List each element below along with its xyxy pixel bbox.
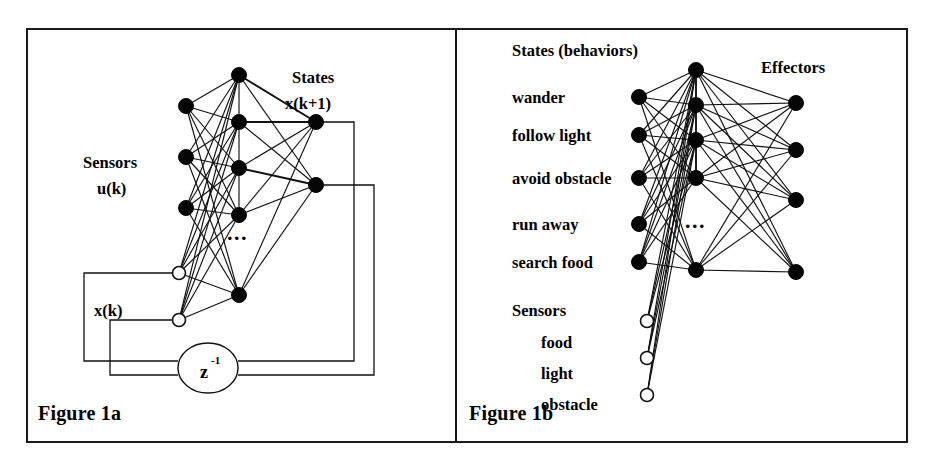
hidden-node	[232, 68, 247, 83]
hidden-ellipsis: ...	[227, 220, 248, 245]
behavior-label-run-away: run away	[512, 215, 579, 234]
hidden-node	[689, 263, 704, 278]
diagram-1b: ... States (behaviors) Effectors wander …	[457, 28, 908, 443]
effector-node	[789, 265, 804, 280]
panel-figure-1a: ... z -1	[26, 28, 457, 443]
hidden-node	[232, 288, 247, 303]
sensor-label-light: light	[541, 364, 574, 383]
figure-page: ... z -1	[0, 0, 932, 471]
sensor-layer-1b	[641, 315, 654, 402]
delay-ellipse	[178, 343, 238, 393]
hidden-node	[689, 63, 704, 78]
delay-exponent-label: -1	[211, 354, 220, 366]
sensors-title-1a: Sensors	[83, 153, 138, 172]
effector-layer-1b	[789, 96, 804, 280]
output-state-node	[309, 178, 324, 193]
hidden-node	[232, 115, 247, 130]
state-feedback-symbol-1a: x(k)	[94, 301, 122, 320]
behavior-label-search-food: search food	[512, 253, 593, 272]
sensors-title-1b: Sensors	[512, 301, 567, 320]
edges-hidden-to-effector-1b	[696, 70, 796, 272]
state-feedback-node	[173, 314, 186, 327]
states-behaviors-title-1b: States (behaviors)	[512, 41, 638, 60]
hidden-node	[689, 98, 704, 113]
hidden-node	[689, 171, 704, 186]
behavior-label-avoid-obstacle: avoid obstacle	[512, 169, 611, 188]
sensor-node	[179, 201, 194, 216]
sensor-node	[641, 315, 654, 328]
diagram-1a: ... z -1	[26, 28, 457, 443]
figure-caption-1a: Figure 1a	[38, 402, 121, 425]
effector-node	[789, 96, 804, 111]
state-feedback-layer-1a	[173, 267, 186, 327]
unit-delay-block-1a: z -1	[178, 343, 238, 393]
output-state-node	[309, 115, 324, 130]
behavior-node	[632, 128, 647, 143]
behavior-label-wander: wander	[512, 88, 565, 107]
panel-figure-1b: ... States (behaviors) Effectors wander …	[457, 28, 908, 443]
behavior-node	[632, 255, 647, 270]
figure-caption-1b: Figure 1b	[469, 402, 553, 425]
sensor-node	[641, 352, 654, 365]
states-title-1a: States	[292, 68, 335, 87]
output-state-layer-1a	[309, 115, 324, 193]
behavior-label-follow-light: follow light	[512, 126, 592, 145]
delay-label: z	[200, 362, 208, 382]
delay-to-state-node-2	[110, 320, 178, 375]
behavior-node	[632, 90, 647, 105]
sensor-node	[641, 389, 654, 402]
sensor-node	[179, 99, 194, 114]
hidden-node	[232, 161, 247, 176]
effector-node	[789, 193, 804, 208]
sensor-label-food: food	[541, 333, 572, 352]
states-symbol-1a: x(k+1)	[285, 94, 331, 113]
sensor-node	[179, 150, 194, 165]
effector-node	[789, 143, 804, 158]
effectors-title-1b: Effectors	[761, 58, 826, 77]
state-feedback-node	[173, 267, 186, 280]
sensors-symbol-1a: u(k)	[97, 179, 126, 198]
hidden-ellipsis: ...	[685, 208, 706, 233]
hidden-node	[689, 133, 704, 148]
behavior-node	[632, 217, 647, 232]
behavior-node	[632, 171, 647, 186]
